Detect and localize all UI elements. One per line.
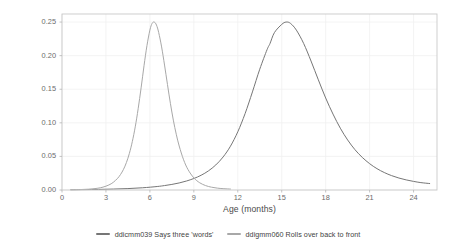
x-tick-label: 15: [270, 193, 294, 202]
legend-item-1[interactable]: ddicmm039 Says three 'words': [96, 230, 214, 239]
legend-item-label: ddigmm060 Rolls over back to front: [246, 230, 361, 239]
x-tick-label: 24: [402, 193, 426, 202]
chart-figure: 0.000.050.100.150.200.25 03691215182124 …: [0, 0, 456, 248]
x-tick-label: 18: [314, 193, 338, 202]
y-tick-label: 0.10: [30, 119, 56, 127]
x-tick-label: 12: [226, 193, 250, 202]
y-tick-label: 0.25: [30, 18, 56, 26]
x-tick-label: 3: [94, 193, 118, 202]
legend-item-2[interactable]: ddigmm060 Rolls over back to front: [227, 230, 361, 239]
x-tick-label: 6: [138, 193, 162, 202]
chart-legend: ddicmm039 Says three 'words'ddigmm060 Ro…: [0, 226, 456, 242]
legend-line-icon: [227, 233, 241, 234]
legend-line-icon: [96, 233, 110, 234]
y-axis-tick-labels: 0.000.050.100.150.200.25: [28, 0, 56, 248]
legend-item-label: ddicmm039 Says three 'words': [115, 230, 214, 239]
x-tick-label: 21: [358, 193, 382, 202]
y-tick-label: 0.20: [30, 52, 56, 60]
y-tick-label: 0.15: [30, 85, 56, 93]
y-tick-label: 0.05: [30, 152, 56, 160]
x-tick-label: 0: [50, 193, 74, 202]
x-tick-label: 9: [182, 193, 206, 202]
x-axis-title: Age (months): [62, 204, 437, 214]
